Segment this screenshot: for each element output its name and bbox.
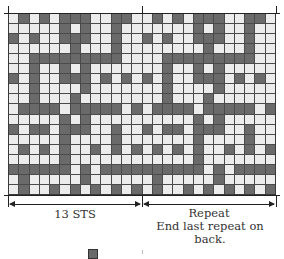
chart-cell (40, 125, 49, 134)
chart-cell (122, 145, 131, 154)
chart-cell (40, 54, 49, 63)
chart-cell (91, 125, 100, 134)
chart-cell (153, 94, 162, 103)
chart-cell (112, 34, 121, 43)
chart-cell (81, 34, 90, 43)
chart-cell (143, 34, 152, 43)
chart-cell (71, 44, 80, 53)
chart-cell (143, 104, 152, 113)
bottom-tick-right (276, 195, 277, 207)
chart-cell (132, 165, 141, 174)
chart-cell (50, 145, 59, 154)
chart-cell (50, 54, 59, 63)
chart-cell (184, 135, 193, 144)
chart-cell (19, 74, 28, 83)
chart-cell (184, 104, 193, 113)
chart-cell (184, 185, 193, 194)
chart-cell (9, 165, 18, 174)
chart-cell (81, 125, 90, 134)
chart-cell (163, 94, 172, 103)
chart-cell (30, 74, 39, 83)
chart-cell (40, 155, 49, 164)
chart-cell (163, 44, 172, 53)
chart-cell (112, 125, 121, 134)
chart-cell (132, 135, 141, 144)
chart-cell (81, 44, 90, 53)
chart-cell (225, 125, 234, 134)
chart-cell (266, 165, 275, 174)
chart-cell (112, 165, 121, 174)
chart-cell (71, 74, 80, 83)
chart-cell (9, 155, 18, 164)
chart-cell (112, 155, 121, 164)
chart-cell (163, 135, 172, 144)
chart-cell (255, 165, 264, 174)
chart-cell (101, 14, 110, 23)
chart-cell (71, 115, 80, 124)
chart-cell (173, 44, 182, 53)
chart-cell (112, 24, 121, 33)
chart-cell (132, 64, 141, 73)
chart-cell (60, 165, 69, 174)
chart-cell (235, 34, 244, 43)
chart-cell (235, 135, 244, 144)
chart-cell (122, 54, 131, 63)
chart-cell (153, 175, 162, 184)
chart-cell (163, 74, 172, 83)
left-arrowhead-end-icon (135, 201, 141, 207)
chart-cell (50, 125, 59, 134)
chart-cell (173, 34, 182, 43)
chart-cell (30, 185, 39, 194)
chart-cell (235, 64, 244, 73)
chart-cell (184, 24, 193, 33)
chart-cell (194, 125, 203, 134)
right-span-arrow (144, 204, 274, 205)
chart-cell (225, 14, 234, 23)
chart-cell (194, 175, 203, 184)
chart-cell (255, 115, 264, 124)
chart-cell (225, 135, 234, 144)
chart-cell (143, 145, 152, 154)
chart-cell (225, 165, 234, 174)
chart-cell (19, 94, 28, 103)
chart-cell (60, 24, 69, 33)
chart-cell (60, 84, 69, 93)
chart-cell (173, 125, 182, 134)
chart-cell (255, 24, 264, 33)
chart-cell (255, 34, 264, 43)
chart-cell (173, 145, 182, 154)
chart-cell (60, 175, 69, 184)
chart-cell (40, 94, 49, 103)
chart-cell (194, 104, 203, 113)
chart-cell (60, 155, 69, 164)
chart-cell (194, 24, 203, 33)
chart-cell (50, 84, 59, 93)
chart-cell (204, 74, 213, 83)
chart-cell (214, 135, 223, 144)
chart-cell (40, 115, 49, 124)
chart-cell (81, 104, 90, 113)
legend-mark (142, 250, 143, 254)
chart-cell (204, 155, 213, 164)
chart-grid (8, 13, 276, 195)
chart-cell (153, 155, 162, 164)
chart-cell (163, 84, 172, 93)
chart-cell (184, 64, 193, 73)
chart-cell (60, 185, 69, 194)
chart-cell (50, 94, 59, 103)
chart-cell (153, 14, 162, 23)
chart-cell (214, 14, 223, 23)
chart-cell (71, 84, 80, 93)
chart-cell (101, 125, 110, 134)
chart-cell (9, 135, 18, 144)
chart-cell (255, 74, 264, 83)
knitting-chart (8, 13, 276, 195)
chart-cell (153, 44, 162, 53)
chart-cell (163, 104, 172, 113)
chart-cell (50, 14, 59, 23)
chart-cell (163, 64, 172, 73)
chart-cell (153, 84, 162, 93)
chart-cell (71, 24, 80, 33)
chart-cell (235, 185, 244, 194)
chart-cell (132, 54, 141, 63)
